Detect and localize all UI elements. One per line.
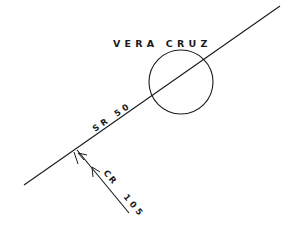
junction-tick-mark — [74, 152, 78, 164]
cr105-label-number: 105 — [121, 192, 147, 220]
cr105-road-line — [77, 150, 129, 213]
cr105-label-prefix: CR — [101, 168, 119, 187]
cr105-arrow-icon-lower — [92, 167, 100, 177]
vera-cruz-town-circle — [149, 50, 213, 114]
road-map-diagram: VERA CRUZ SR 50 CR 105 — [0, 0, 294, 241]
sr50-label: SR 50 — [90, 100, 133, 134]
vera-cruz-label: VERA CRUZ — [113, 38, 212, 49]
